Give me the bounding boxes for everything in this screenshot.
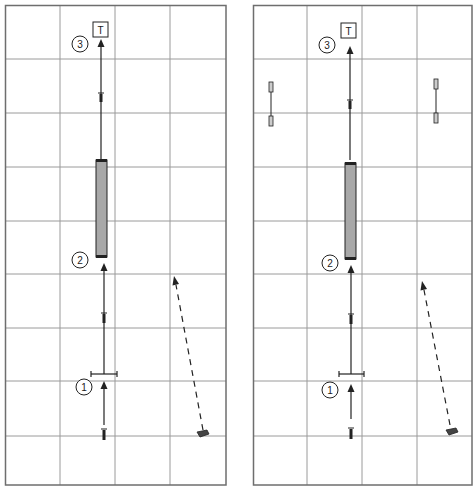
step-2-label: 2 [322, 255, 338, 271]
player-icon [347, 100, 353, 109]
player-icon-start [348, 428, 354, 439]
step-3-label: 3 [319, 37, 335, 53]
pitch-grid-right: T 3 2 [248, 0, 475, 492]
svg-text:T: T [345, 26, 351, 37]
obstacle-bar [96, 159, 107, 258]
target-marker: T [93, 22, 108, 37]
drill-diagram-left: T 3 2 [0, 0, 236, 492]
step-2-label: 2 [72, 252, 88, 268]
step-3-label: 3 [72, 36, 88, 52]
svg-text:1: 1 [327, 385, 333, 396]
svg-text:1: 1 [81, 382, 87, 393]
player-icon [98, 93, 104, 102]
svg-text:T: T [97, 25, 103, 36]
cone-gate-left [269, 82, 273, 126]
svg-text:3: 3 [77, 39, 83, 50]
player-icon-start [101, 429, 107, 440]
svg-text:3: 3 [324, 40, 330, 51]
run-arrow-start [348, 384, 355, 419]
cone-gate-right [434, 79, 438, 123]
player-icon [348, 314, 354, 324]
svg-text:2: 2 [327, 258, 333, 269]
passer-icon [446, 428, 458, 435]
player-icon [101, 313, 107, 323]
svg-text:2: 2 [77, 255, 83, 266]
pass-arrow-dashed [173, 276, 204, 430]
obstacle-bar [345, 162, 356, 260]
target-marker: T [341, 23, 356, 38]
pitch-grid-left: T 3 2 [0, 0, 236, 492]
step-1-label: 1 [322, 382, 338, 398]
pass-arrow-dashed [421, 281, 451, 425]
drill-diagram-right: T 3 2 [248, 0, 475, 492]
run-arrow-start [101, 381, 108, 425]
step-1-label: 1 [76, 379, 92, 395]
